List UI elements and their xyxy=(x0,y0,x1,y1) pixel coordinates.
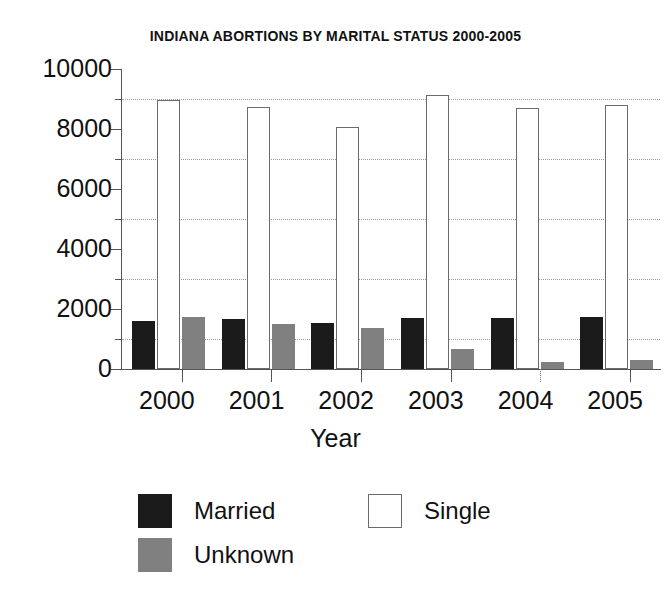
bar-married-2001 xyxy=(222,319,245,369)
y-tick-label: 6000 xyxy=(56,176,112,201)
y-tick-major xyxy=(111,309,122,310)
legend-label: Single xyxy=(424,497,491,525)
x-tick xyxy=(451,369,452,382)
bar-married-2003 xyxy=(401,318,424,369)
x-tick xyxy=(540,369,542,382)
x-tick-label-2004: 2004 xyxy=(481,386,571,415)
bar-married-2000 xyxy=(132,321,155,369)
chart-title: INDIANA ABORTIONS BY MARITAL STATUS 2000… xyxy=(0,28,671,44)
legend-item-single[interactable]: Single xyxy=(368,494,491,528)
bar-unknown-2000 xyxy=(182,317,205,370)
y-tick-minor xyxy=(115,99,122,100)
x-axis-title: Year xyxy=(0,424,671,453)
legend-swatch-unknown-icon xyxy=(138,538,172,572)
legend-swatch-married-icon xyxy=(138,494,172,528)
bar-married-2004 xyxy=(491,318,514,369)
y-tick-major xyxy=(111,249,122,250)
bar-single-2003 xyxy=(426,95,449,369)
y-axis-labels: 0200040006000800010000 xyxy=(0,69,112,369)
x-tick xyxy=(182,369,183,382)
bar-single-2001 xyxy=(247,107,270,370)
bar-single-2005 xyxy=(605,105,628,369)
x-tick-label-2005: 2005 xyxy=(570,386,660,415)
y-tick-label: 10000 xyxy=(42,56,112,81)
y-tick-minor xyxy=(115,159,122,160)
chart-legend: MarriedSingleUnknown xyxy=(138,494,558,578)
gridline xyxy=(122,99,660,100)
legend-item-married[interactable]: Married xyxy=(138,494,275,528)
y-tick-major xyxy=(111,369,122,370)
y-tick-minor xyxy=(115,219,122,220)
bar-unknown-2004 xyxy=(541,362,564,369)
bar-unknown-2001 xyxy=(272,324,295,369)
plot-area xyxy=(122,69,660,369)
bar-unknown-2003 xyxy=(451,349,474,369)
x-tick-label-2001: 2001 xyxy=(212,386,302,415)
legend-swatch-single-icon xyxy=(368,494,402,528)
y-tick-major xyxy=(111,69,122,70)
y-tick-major xyxy=(111,189,122,190)
y-tick-minor xyxy=(115,279,122,280)
bar-single-2000 xyxy=(157,100,180,369)
gridline xyxy=(122,219,660,220)
chart-container: INDIANA ABORTIONS BY MARITAL STATUS 2000… xyxy=(0,0,671,601)
x-tick xyxy=(361,369,362,382)
bar-single-2002 xyxy=(336,127,359,369)
x-axis-line xyxy=(121,369,661,370)
x-tick-label-2003: 2003 xyxy=(391,386,481,415)
bar-single-2004 xyxy=(516,108,539,369)
legend-label: Unknown xyxy=(194,541,294,569)
bar-married-2002 xyxy=(311,323,334,369)
x-tick-label-2000: 2000 xyxy=(122,386,212,415)
x-tick xyxy=(630,369,631,382)
y-tick-major xyxy=(111,129,122,130)
legend-item-unknown[interactable]: Unknown xyxy=(138,538,294,572)
x-tick xyxy=(271,369,272,382)
y-tick-minor xyxy=(115,339,122,340)
bar-unknown-2002 xyxy=(361,328,384,369)
bar-married-2005 xyxy=(580,317,603,369)
y-tick-label: 2000 xyxy=(56,296,112,321)
legend-label: Married xyxy=(194,497,275,525)
bar-unknown-2005 xyxy=(630,360,653,369)
y-tick-label: 8000 xyxy=(56,116,112,141)
gridline xyxy=(122,279,660,280)
y-tick-label: 0 xyxy=(98,356,112,381)
gridline xyxy=(122,159,660,160)
x-tick-label-2002: 2002 xyxy=(301,386,391,415)
y-tick-label: 4000 xyxy=(56,236,112,261)
